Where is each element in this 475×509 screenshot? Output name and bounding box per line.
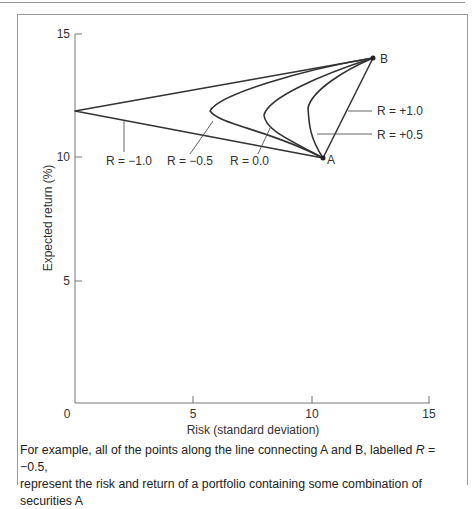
curve-r-0 — [264, 58, 373, 158]
caption-line1-r: R — [416, 443, 425, 457]
label-r-plus-1: R = +1.0 — [377, 104, 423, 118]
label-b: B — [380, 52, 388, 66]
y-axis-label: Expected return (%) — [41, 165, 55, 272]
label-r-0: R = 0.0 — [230, 154, 269, 168]
y-tick-label-10: 10 — [57, 150, 71, 164]
point-a — [321, 156, 326, 161]
leader-r-minus-0-5 — [190, 121, 213, 154]
label-r-minus-1: R = −1.0 — [106, 154, 152, 168]
label-a: A — [327, 153, 335, 167]
y-tick-label-15: 15 — [57, 27, 71, 41]
label-r-plus-0-5: R = +0.5 — [377, 128, 423, 142]
leader-r-0 — [258, 126, 271, 154]
x-tick-label-10: 10 — [305, 407, 319, 421]
point-b — [371, 56, 376, 61]
x-tick-label-15: 15 — [422, 407, 436, 421]
y-tick-label-5: 5 — [63, 274, 70, 288]
x-axis-label: Risk (standard deviation) — [187, 423, 320, 437]
x-tick-label-5: 5 — [190, 407, 197, 421]
caption-line2: represent the risk and return of a portf… — [20, 477, 422, 508]
label-r-minus-0-5: R = −0.5 — [167, 154, 213, 168]
x-tick-label-0: 0 — [64, 407, 71, 421]
curve-r-plus-0-5 — [308, 58, 373, 158]
caption-line1-pre: For example, all of the points along the… — [20, 443, 416, 457]
axes — [75, 34, 430, 403]
curve-r-minus-1 — [75, 58, 373, 158]
figure-caption: For example, all of the points along the… — [20, 442, 460, 509]
